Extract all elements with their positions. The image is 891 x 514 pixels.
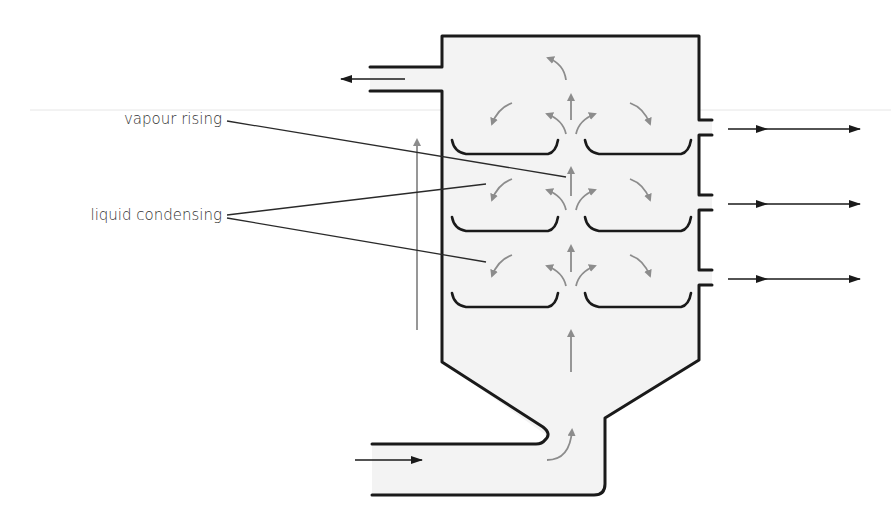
liquid-condensing-label: liquid condensing	[91, 206, 223, 224]
distillation-column-diagram: vapour rising liquid condensing	[0, 0, 891, 514]
vapour-rising-label: vapour rising	[124, 110, 222, 128]
